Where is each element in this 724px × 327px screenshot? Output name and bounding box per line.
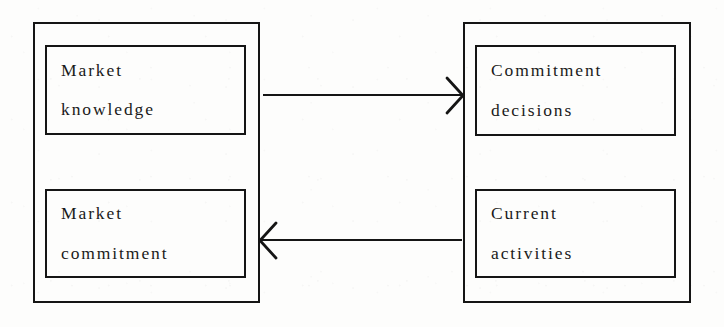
diagram-canvas: Market knowledge Market commitment Commi…	[0, 0, 724, 327]
node-current-activities[interactable]: Current activities	[475, 189, 676, 278]
arrow-activities-to-commitment	[260, 223, 462, 258]
node-commitment-decisions-line1: Commitment	[477, 62, 674, 80]
node-market-commitment-line2: commitment	[47, 245, 244, 263]
node-market-knowledge[interactable]: Market knowledge	[45, 45, 246, 135]
node-market-commitment-line1: Market	[47, 205, 244, 223]
node-current-activities-line2: activities	[477, 245, 674, 263]
node-current-activities-line1: Current	[477, 205, 674, 223]
arrow-knowledge-to-decisions	[263, 78, 463, 113]
node-commitment-decisions-line2: decisions	[477, 102, 674, 120]
node-commitment-decisions[interactable]: Commitment decisions	[475, 45, 676, 136]
node-market-knowledge-line1: Market	[47, 62, 244, 80]
arrow-activities-to-commitment-head-icon	[260, 223, 276, 258]
node-market-commitment[interactable]: Market commitment	[45, 189, 246, 278]
node-market-knowledge-line2: knowledge	[47, 101, 244, 119]
arrow-knowledge-to-decisions-head-icon	[447, 78, 463, 113]
